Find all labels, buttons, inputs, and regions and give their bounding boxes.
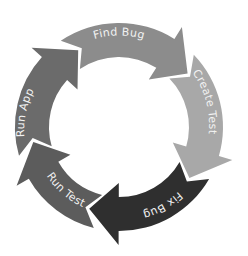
segment-run-test: Run Test xyxy=(17,142,103,228)
cycle-diagram: Run Test Run App Find Bug Create Test Fi… xyxy=(0,0,248,256)
segment-find-bug: Find Bug xyxy=(61,23,188,80)
segment-run-app: Run App xyxy=(14,48,78,156)
